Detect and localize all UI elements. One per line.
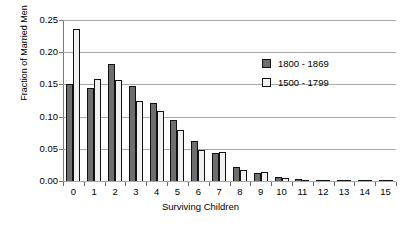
bar-chart: Fraction of Married Men 0.000.050.100.15…	[0, 0, 401, 231]
bar	[316, 180, 323, 182]
y-tick-label: 0.05	[28, 144, 58, 153]
bar	[295, 179, 302, 181]
bar-group	[209, 20, 230, 181]
bar-group	[334, 20, 355, 181]
bar	[66, 84, 73, 181]
bar	[115, 80, 122, 181]
bar	[302, 180, 309, 182]
bar	[240, 170, 247, 181]
bar	[358, 180, 365, 182]
legend-label: 1800 - 1869	[278, 58, 329, 69]
bar-group	[313, 20, 334, 181]
bar	[150, 103, 157, 181]
bar	[344, 180, 351, 182]
legend-item-1500-1799: 1500 - 1799	[262, 73, 329, 92]
chart-legend: 1800 - 1869 1500 - 1799	[262, 54, 329, 92]
bar	[212, 153, 219, 181]
bar	[136, 101, 143, 181]
bar-group	[167, 20, 188, 181]
bar-group	[354, 20, 375, 181]
y-tick-label: 0.25	[28, 15, 58, 24]
legend-swatch-icon	[262, 78, 271, 87]
y-tick-label: 0.00	[28, 176, 58, 185]
bar	[282, 178, 289, 181]
bar-group	[125, 20, 146, 181]
bar	[323, 180, 330, 182]
bar	[157, 111, 164, 181]
bar	[177, 130, 184, 181]
plot-area	[63, 20, 396, 182]
bar	[129, 86, 136, 181]
x-axis-title: Surviving Children	[0, 201, 401, 212]
legend-label: 1500 - 1799	[278, 77, 329, 88]
y-tick-label: 0.15	[28, 79, 58, 88]
bar-group	[250, 20, 271, 181]
bar	[87, 88, 94, 181]
x-tick-label: 15	[374, 186, 398, 197]
bar	[233, 167, 240, 181]
bar-group	[84, 20, 105, 181]
bar	[191, 141, 198, 181]
bar-group	[271, 20, 292, 181]
bar	[379, 180, 386, 182]
bar	[261, 172, 268, 181]
bar	[275, 177, 282, 181]
bar	[337, 180, 344, 182]
bar	[386, 180, 393, 182]
bar-group	[105, 20, 126, 181]
y-tick-label: 0.10	[28, 112, 58, 121]
bar-group	[188, 20, 209, 181]
bar	[365, 180, 372, 182]
bar	[198, 150, 205, 181]
bar-group	[292, 20, 313, 181]
bar	[254, 173, 261, 181]
bar	[73, 29, 80, 181]
bar-group	[63, 20, 84, 181]
bar-group	[230, 20, 251, 181]
legend-swatch-icon	[262, 59, 271, 68]
bar	[108, 64, 115, 181]
legend-item-1800-1869: 1800 - 1869	[262, 54, 329, 73]
bar	[94, 79, 101, 181]
bar-group	[375, 20, 396, 181]
bar	[219, 152, 226, 181]
bar	[170, 120, 177, 181]
bar-group	[146, 20, 167, 181]
y-tick-label: 0.20	[28, 47, 58, 56]
